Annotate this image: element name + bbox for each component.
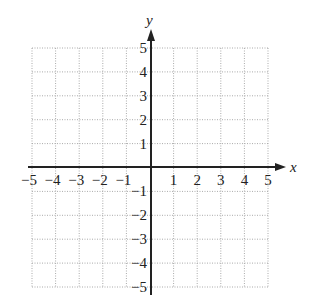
y-tick-label: 2 <box>140 112 148 128</box>
x-axis-arrow-icon <box>275 163 286 171</box>
y-tick-label: −1 <box>131 183 147 199</box>
y-tick-label: 5 <box>140 40 148 56</box>
coordinate-plane: x y −5−4−3−2−112345 54321−1−2−3−4−5 <box>0 0 311 301</box>
x-tick-label: −4 <box>45 172 61 188</box>
y-tick-label: 1 <box>140 136 148 152</box>
y-tick-label: −4 <box>131 255 147 271</box>
y-tick-label: 3 <box>140 88 148 104</box>
x-tick-label: −3 <box>68 172 84 188</box>
x-tick-label: 4 <box>241 172 249 188</box>
y-tick-label: −3 <box>131 231 147 247</box>
y-tick-label: −5 <box>131 279 147 295</box>
y-axis-arrow-icon <box>147 29 155 41</box>
y-axis-label: y <box>144 12 153 28</box>
x-tick-label: −5 <box>21 172 37 188</box>
x-tick-label: 1 <box>170 172 178 188</box>
x-tick-label: −1 <box>115 172 131 188</box>
x-tick-label: 2 <box>193 172 201 188</box>
x-tick-label: 3 <box>217 172 225 188</box>
x-tick-label: −2 <box>92 172 108 188</box>
y-tick-label: 4 <box>140 64 148 80</box>
x-tick-label: 5 <box>264 172 272 188</box>
axes: x y <box>28 12 297 295</box>
x-axis-label: x <box>289 159 297 175</box>
y-tick-label: −2 <box>131 207 147 223</box>
